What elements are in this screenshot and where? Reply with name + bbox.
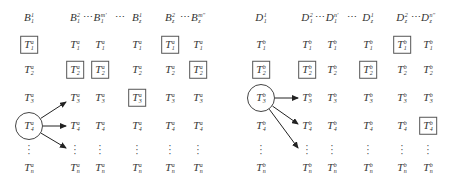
cell: Ta3 [24, 92, 34, 104]
cell: Ta4 [95, 120, 105, 132]
cell: Tbn [363, 162, 373, 174]
cell: Tb4 [397, 120, 407, 132]
cell: Ta3 [193, 92, 203, 104]
cell: Tb4 [327, 120, 337, 132]
cell: Tb1 [302, 39, 312, 51]
cell: Tbn [397, 162, 407, 174]
cell: Tan [132, 162, 142, 174]
cell: Tb2 [327, 64, 337, 76]
cell: Tb1 [327, 39, 337, 51]
cell: Ta1 [193, 39, 203, 51]
boxed-cell: Tb2 [359, 61, 377, 79]
cell: Tb4 [363, 120, 373, 132]
left_panel-header-3: B1z [132, 12, 142, 24]
vertical-ellipsis: ··· [98, 144, 101, 156]
circled-cell-marker [247, 84, 275, 112]
cell: Ta1 [95, 39, 105, 51]
arrow [41, 133, 66, 148]
vertical-ellipsis: ··· [305, 144, 308, 156]
cell: Tb1 [363, 39, 373, 51]
cell: Ta1 [70, 39, 80, 51]
cell: Tb4 [256, 120, 266, 132]
cell: Tb2 [423, 64, 433, 76]
cell: Tan [70, 162, 80, 174]
left_panel-header-1: B21 [70, 12, 80, 24]
cell: Ta3 [70, 92, 80, 104]
boxed-cell: Ta3 [128, 89, 146, 107]
vertical-ellipsis: ··· [27, 144, 30, 156]
cell: Tbn [327, 162, 337, 174]
boxed-cell: Tb4 [419, 117, 437, 135]
left_panel-header-5: Bm''z [191, 12, 205, 24]
right_panel-header-1: D21 [301, 12, 312, 24]
left_panel-header-ellipsis: ⋯ [83, 11, 93, 22]
boxed-cell: Ta2 [189, 61, 207, 79]
cell: Ta1 [132, 39, 142, 51]
cell: Ta3 [95, 92, 105, 104]
cell: Ta2 [24, 64, 34, 76]
cell: Ta4 [165, 120, 175, 132]
cell: Tan [193, 162, 203, 174]
cell: Tb3 [423, 92, 433, 104]
right_panel-header-4: D2z [396, 12, 407, 24]
cell: Tbn [302, 162, 312, 174]
cell: Tbn [256, 162, 266, 174]
cell: Tb3 [302, 92, 312, 104]
left_panel-header-4: B2z [165, 12, 175, 24]
boxed-cell: Tb2 [298, 61, 316, 79]
cell: Tb2 [397, 64, 407, 76]
right_panel-header-ellipsis: ⋯ [315, 11, 325, 22]
vertical-ellipsis: ··· [366, 144, 369, 156]
right_panel-header-5: Dn''z [421, 12, 435, 24]
arrow-layer [0, 0, 453, 184]
cell: Ta4 [193, 120, 203, 132]
cell: Ta4 [132, 120, 142, 132]
vertical-ellipsis: ··· [135, 144, 138, 156]
right_panel-header-ellipsis: ⋯ [411, 11, 421, 22]
left_panel-header-2: Bm'1 [94, 12, 107, 24]
vertical-ellipsis: ··· [73, 144, 76, 156]
boxed-cell: Ta1 [20, 36, 38, 54]
arrow [269, 109, 298, 148]
arrow [41, 102, 66, 118]
right_panel-header-2: Dn'1 [326, 12, 339, 24]
vertical-ellipsis: ··· [426, 144, 429, 156]
vertical-ellipsis: ··· [168, 144, 171, 156]
cell: Tan [165, 162, 175, 174]
left_panel-header-ellipsis: ⋯ [115, 11, 125, 22]
vertical-ellipsis: ··· [196, 144, 199, 156]
cell: Ta2 [132, 64, 142, 76]
boxed-cell: Ta2 [91, 61, 109, 79]
cell: Tb1 [423, 39, 433, 51]
cell: Tan [95, 162, 105, 174]
boxed-cell: Ta1 [161, 36, 179, 54]
vertical-ellipsis: ··· [330, 144, 333, 156]
cell: Tb1 [256, 39, 266, 51]
cell: Tb4 [302, 120, 312, 132]
right_panel-header-0: D11 [255, 12, 266, 24]
left_panel-header-0: B11 [24, 12, 34, 24]
boxed-cell: Tb1 [393, 36, 411, 54]
cell: Ta3 [165, 92, 175, 104]
cell: Tb3 [327, 92, 337, 104]
cell: Ta2 [165, 64, 175, 76]
cell: Tb3 [363, 92, 373, 104]
right_panel-header-ellipsis: ⋯ [347, 11, 357, 22]
cell: Tan [24, 162, 34, 174]
boxed-cell: Ta2 [66, 61, 84, 79]
cell: Ta4 [70, 120, 80, 132]
boxed-cell: Tb2 [252, 61, 270, 79]
circled-cell-marker [15, 112, 43, 140]
arrow [272, 106, 298, 124]
vertical-ellipsis: ··· [259, 144, 262, 156]
cell: Tbn [423, 162, 433, 174]
right_panel-header-3: D1z [362, 12, 373, 24]
left_panel-header-ellipsis: ⋯ [180, 11, 190, 22]
cell: Tb3 [397, 92, 407, 104]
vertical-ellipsis: ··· [400, 144, 403, 156]
